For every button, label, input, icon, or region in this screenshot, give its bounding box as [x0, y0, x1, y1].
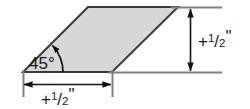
- dimension-label-right: +1/2": [198, 27, 232, 51]
- bottom-sign: +: [41, 90, 51, 109]
- svg-text:+1/2": +1/2": [198, 27, 232, 51]
- dimension-label-bottom: +1/2": [41, 85, 75, 109]
- right-sign: +: [198, 32, 208, 51]
- right-unit: ": [225, 27, 231, 46]
- technical-drawing-figure: 45° +1/2" +1/2": [0, 0, 250, 109]
- angle-label: 45°: [29, 54, 55, 73]
- svg-text:+1/2": +1/2": [41, 85, 75, 109]
- bottom-unit: ": [68, 85, 74, 104]
- drawing-canvas: 45° +1/2" +1/2": [0, 0, 250, 109]
